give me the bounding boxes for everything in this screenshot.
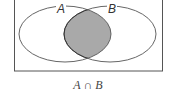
caption-left: A — [73, 78, 80, 92]
set-a-label: A — [56, 2, 65, 16]
caption: A∩B — [0, 78, 169, 93]
set-b-label: B — [108, 2, 116, 16]
caption-right: B — [95, 78, 102, 92]
intersection-operator: ∩ — [81, 78, 96, 92]
